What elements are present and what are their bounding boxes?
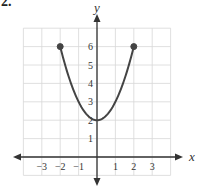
x-tick-label: −2 (55, 161, 66, 172)
y-tick-label: 4 (88, 78, 93, 89)
endpoint-dot (131, 44, 137, 50)
tick-labels: −3−2−1123123456 (36, 41, 154, 172)
y-tick-label: 3 (88, 96, 93, 107)
x-tick-label: −1 (73, 161, 84, 172)
x-tick-label: 3 (150, 161, 155, 172)
endpoint-dot (57, 44, 63, 50)
x-tick-label: 2 (131, 161, 136, 172)
x-arrow-left-icon (13, 154, 21, 161)
y-arrow-up-icon (94, 14, 101, 22)
y-axis-label: y (92, 0, 100, 15)
x-tick-label: −3 (36, 161, 47, 172)
x-arrow-right-icon (175, 154, 183, 161)
x-axis-label: x (188, 149, 195, 164)
y-tick-label: 6 (88, 41, 93, 52)
function-graph: −3−2−1123123456 x y (0, 0, 203, 195)
x-tick-label: 1 (113, 161, 118, 172)
y-tick-label: 1 (88, 133, 93, 144)
y-arrow-down-icon (94, 178, 101, 186)
y-tick-label: 5 (88, 60, 93, 71)
